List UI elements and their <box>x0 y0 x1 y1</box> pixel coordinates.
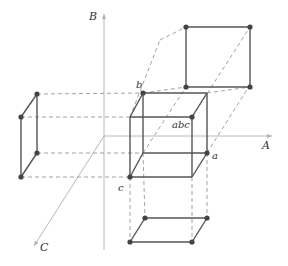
axis-label-a: A <box>262 140 270 151</box>
vertex-label-abc: abc <box>172 120 190 130</box>
diagram-canvas <box>0 0 288 266</box>
projection-bottom-parallelogram <box>130 218 145 242</box>
cube-edge <box>192 93 207 117</box>
vertex-dot-icon <box>18 174 23 179</box>
projection-line <box>130 40 160 117</box>
orthographic-projection-diagram: A B C babcac <box>0 0 288 266</box>
vertex-dot-icon <box>247 84 252 89</box>
projection-line <box>207 87 250 93</box>
vertex-dot-icon <box>34 91 39 96</box>
vertex-dot-icon <box>183 84 188 89</box>
cube-edge <box>130 153 143 177</box>
projection-left-parallelogram <box>21 153 37 177</box>
projection-bottom-parallelogram <box>192 218 207 242</box>
axis-a-arrow-icon <box>267 134 272 138</box>
vertex-dot-icon <box>142 215 147 220</box>
axis-b-arrow-icon <box>102 14 106 19</box>
axes <box>34 14 272 250</box>
vertex-dot-icon <box>189 114 194 119</box>
projection-left-parallelogram <box>21 94 37 117</box>
axis-label-b: B <box>89 11 97 22</box>
vertex-label-b: b <box>136 80 142 90</box>
vertex-label-a: a <box>212 151 218 161</box>
projection-lines <box>21 27 250 242</box>
vertex-dot-icon <box>127 174 132 179</box>
vertex-dot-icon <box>183 24 188 29</box>
axis-c-arrow-icon <box>34 241 38 246</box>
projection-line <box>37 93 143 94</box>
projection-line <box>207 88 248 153</box>
vertex-dot-icon <box>18 114 23 119</box>
vertex-dot-icon <box>189 239 194 244</box>
vertex-dot-icon <box>127 239 132 244</box>
vertex-dot-icon <box>204 215 209 220</box>
cube-edge <box>130 93 143 117</box>
projection-line <box>160 27 186 40</box>
cube-and-projections <box>21 27 250 242</box>
vertex-label-c: c <box>118 183 124 193</box>
vertex-dot-icon <box>247 24 252 29</box>
projection-line <box>143 153 145 218</box>
vertex-dot-icon <box>204 150 209 155</box>
vertex-dots <box>18 24 252 244</box>
vertex-dot-icon <box>140 90 145 95</box>
cube-edge <box>192 153 207 177</box>
projection-line <box>143 87 186 93</box>
axis-label-c: C <box>40 242 48 253</box>
vertex-dot-icon <box>34 150 39 155</box>
axis-c-line <box>34 136 104 246</box>
